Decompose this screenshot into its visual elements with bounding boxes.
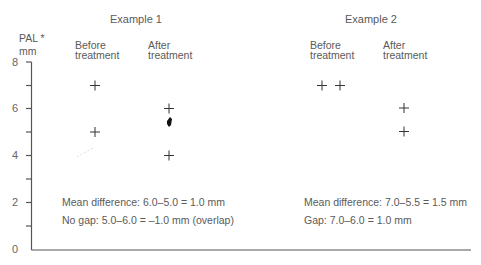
tick-label-0: 0: [4, 243, 18, 255]
y-axis-label-line1: PAL *: [19, 32, 45, 44]
ex1-before-markers: [90, 81, 100, 138]
tick-label-4: 4: [4, 149, 18, 161]
ex1-after-markers: [164, 104, 174, 161]
tick-label-6: 6: [4, 102, 18, 114]
artifact-mark: [167, 117, 172, 127]
ex1-before-label-line2: treatment: [75, 50, 119, 61]
ex2-before-markers: [317, 81, 345, 91]
ex2-mean-difference-note: Mean difference: 7.0–5.5 = 1.5 mm: [304, 196, 467, 208]
artifact-dots: [77, 148, 93, 157]
ex1-after-label-line2: treatment: [148, 50, 192, 61]
ex1-gap-note: No gap: 5.0–6.0 = –1.0 mm (overlap): [62, 214, 234, 226]
example2-title: Example 2: [345, 13, 397, 25]
ex1-mean-difference-note: Mean difference: 6.0–5.0 = 1.0 mm: [62, 196, 225, 208]
ex2-before-label-line2: treatment: [310, 50, 354, 61]
ex2-after-markers: [399, 103, 409, 137]
example1-title: Example 1: [110, 13, 162, 25]
tick-label-2: 2: [4, 196, 18, 208]
y-axis: [26, 62, 32, 250]
y-axis-label-line2: mm: [19, 45, 37, 57]
tick-label-8: 8: [4, 56, 18, 68]
ex2-after-label-line2: treatment: [383, 50, 427, 61]
ex2-gap-note: Gap: 7.0–6.0 = 1.0 mm: [304, 214, 412, 226]
